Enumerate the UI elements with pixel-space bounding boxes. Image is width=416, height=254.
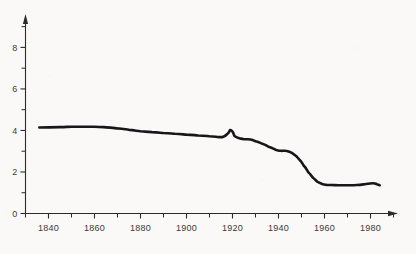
data-series-line-1 bbox=[39, 127, 379, 186]
x-tick-label: 1940 bbox=[268, 223, 289, 233]
y-tick-label: 8 bbox=[12, 43, 17, 53]
y-tick-label: 6 bbox=[12, 84, 17, 94]
x-tick-label: 1860 bbox=[84, 223, 105, 233]
x-tick-label: 1900 bbox=[176, 223, 197, 233]
x-tick-label: 1880 bbox=[130, 223, 151, 233]
x-tick-label: 1920 bbox=[222, 223, 243, 233]
line-chart-plot: 0246818401860188019001920194019601980 bbox=[0, 0, 416, 254]
y-tick-label: 0 bbox=[12, 209, 17, 219]
x-tick-label: 1840 bbox=[38, 223, 59, 233]
y-tick-label: 4 bbox=[12, 126, 17, 136]
arrow-up-icon bbox=[23, 14, 28, 24]
x-tick-label: 1960 bbox=[314, 223, 335, 233]
chart-container: 0246818401860188019001920194019601980 bbox=[0, 0, 416, 254]
y-tick-label: 2 bbox=[12, 167, 17, 177]
x-tick-label: 1980 bbox=[360, 223, 381, 233]
